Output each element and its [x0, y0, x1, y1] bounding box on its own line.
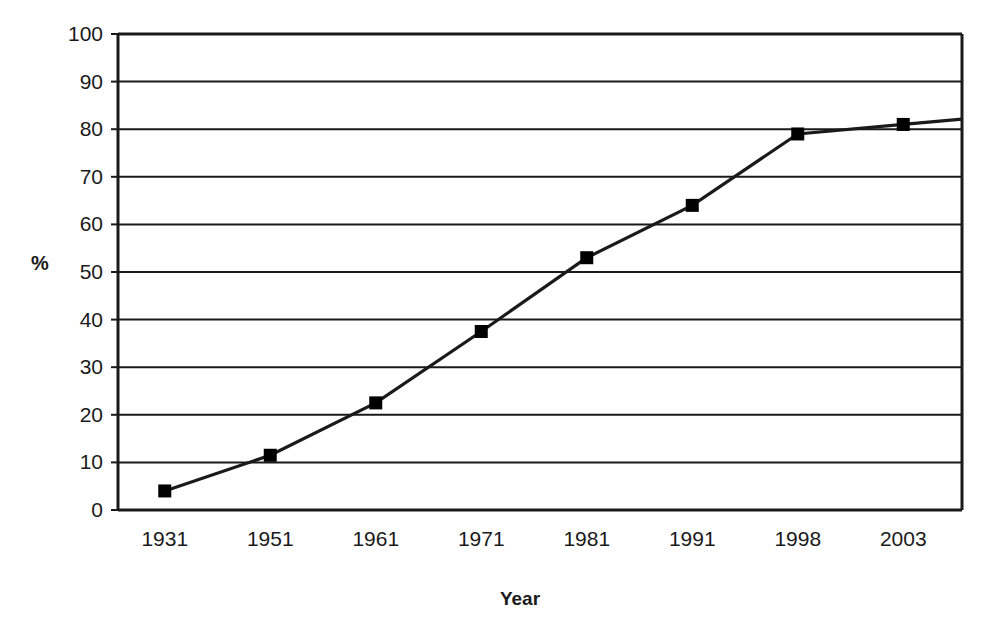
plot-area [0, 0, 989, 635]
data-point-marker [580, 251, 593, 264]
gridlines [118, 34, 962, 462]
data-series-line [165, 119, 962, 491]
data-point-marker [686, 199, 699, 212]
data-point-marker [264, 449, 277, 462]
data-point-marker [158, 484, 171, 497]
series-polyline [165, 119, 962, 491]
data-point-markers [158, 118, 910, 498]
data-point-marker [897, 118, 910, 131]
data-point-marker [475, 325, 488, 338]
line-chart: % Year 1009080706050403020100 1931195119… [0, 0, 989, 635]
data-point-marker [369, 396, 382, 409]
data-point-marker [791, 127, 804, 140]
